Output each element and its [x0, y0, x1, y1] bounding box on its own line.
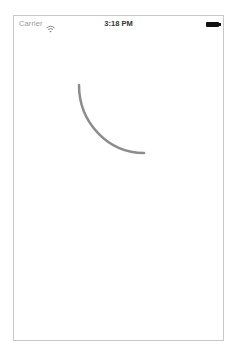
device-screen: Carrier 3:18 PM [13, 15, 224, 341]
loading-arc-indicator [14, 16, 225, 342]
